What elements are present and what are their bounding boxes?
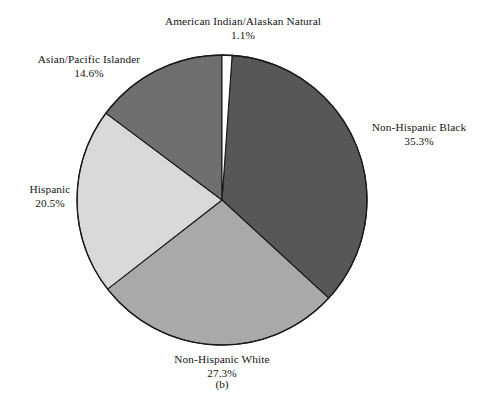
pie-label-percent: 20.5% <box>2 196 98 210</box>
pie-label-percent: 35.3% <box>360 134 478 148</box>
figure-caption: (b) <box>132 378 312 390</box>
pie-chart-figure: American Indian/Alaskan Natural 1.1% Asi… <box>0 0 480 395</box>
pie-label-text: Non-Hispanic White <box>174 353 269 365</box>
pie-label-text: Hispanic <box>30 183 71 195</box>
pie-label-non-hispanic-black: Non-Hispanic Black 35.3% <box>360 120 478 148</box>
pie-label-percent: 14.6% <box>18 66 160 80</box>
pie-label-text: Asian/Pacific Islander <box>38 53 140 65</box>
pie-label-non-hispanic-white: Non-Hispanic White 27.3% <box>132 352 312 380</box>
pie-label-asian-pacific-islander: Asian/Pacific Islander 14.6% <box>18 52 160 80</box>
pie-label-text: Non-Hispanic Black <box>372 121 466 133</box>
pie-label-text: American Indian/Alaskan Natural <box>165 15 321 27</box>
pie-label-american-indian-alaskan-natural: American Indian/Alaskan Natural 1.1% <box>153 14 333 42</box>
pie-label-hispanic: Hispanic 20.5% <box>2 182 98 210</box>
pie-label-percent: 1.1% <box>153 28 333 42</box>
